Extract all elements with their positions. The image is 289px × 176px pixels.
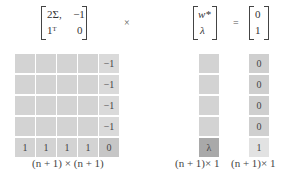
matrix-cell [57,75,77,94]
matrix-dimension-label: (n + 1) × (n + 1) [32,157,104,169]
matrix-entry: 0 [77,24,83,36]
matrix-entry: 2Σ, [47,8,62,20]
matrix-cell: −1 [99,96,119,115]
unknown-row-1: w* [198,8,211,21]
matrix-cell [78,54,98,73]
matrix-cell: 1 [57,138,77,157]
matrix-cell [15,54,35,73]
rhs-dimension-label: (n + 1)× 1 [231,157,275,169]
matrix-cell: −1 [99,54,119,73]
rhs-cell: 1 [249,138,269,157]
matrix-cell [36,96,56,115]
unknown-row-2: λ [200,24,205,37]
matrix-cell: 1 [36,138,56,157]
rhs-cell: 0 [249,96,269,115]
matrix-cell [15,75,35,94]
rhs-cell: 0 [249,54,269,73]
unknown-cell [199,75,219,94]
rhs-cell: 0 [249,117,269,136]
symbolic-matrix-row-2: 1ᵀ 0 [47,24,83,37]
matrix-cell [57,117,77,136]
matrix-cell [78,96,98,115]
matrix-cell [78,75,98,94]
rhs-row-1: 0 [255,8,261,21]
equals-sign: = [233,17,239,28]
matrix-entry: −1 [73,8,85,20]
unknown-cell [199,54,219,73]
unknown-cell [199,96,219,115]
rhs-row-2: 1 [255,24,261,37]
matrix-cell [36,117,56,136]
unknown-dimension-label: (n + 1)× 1 [175,157,219,169]
matrix-cell: 0 [99,138,119,157]
matrix-cell: −1 [99,117,119,136]
matrix-cell [36,75,56,94]
unknown-cell [199,117,219,136]
matrix-cell [15,96,35,115]
matrix-cell [15,117,35,136]
matrix-cell [57,96,77,115]
matrix-cell [57,54,77,73]
lambda-cell: λ [199,138,219,157]
matrix-cell: −1 [99,75,119,94]
rhs-cell: 0 [249,75,269,94]
times-sign: × [124,17,130,28]
matrix-cell: 1 [15,138,35,157]
matrix-cell [36,54,56,73]
matrix-cell [78,117,98,136]
matrix-entry: 1ᵀ [47,24,57,36]
symbolic-matrix-row-1: 2Σ, −1 [47,8,85,21]
matrix-cell: 1 [78,138,98,157]
